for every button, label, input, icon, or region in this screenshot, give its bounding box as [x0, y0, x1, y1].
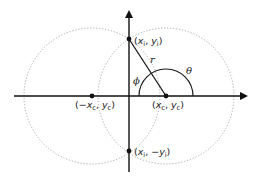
phi-label: ϕ — [133, 75, 140, 86]
theta-label: θ — [186, 65, 192, 76]
left-center-label: (−xc, yc) — [75, 99, 115, 112]
bottom-point-label: (xi, −yi) — [134, 146, 170, 159]
bottom-intersection-point — [127, 149, 132, 154]
top-intersection-point — [127, 37, 132, 42]
circle-geometry-diagram: (xi, yi) (xi, −yi) (−xc, yc) (xc, yc) r … — [0, 0, 260, 177]
top-point-label: (xi, yi) — [134, 35, 162, 48]
right-center-label: (xc, yc) — [152, 99, 184, 112]
left-center-point — [90, 94, 95, 99]
radius-line — [129, 39, 166, 96]
right-center-point — [164, 94, 169, 99]
radius-label: r — [150, 54, 156, 65]
theta-arc — [139, 69, 193, 96]
